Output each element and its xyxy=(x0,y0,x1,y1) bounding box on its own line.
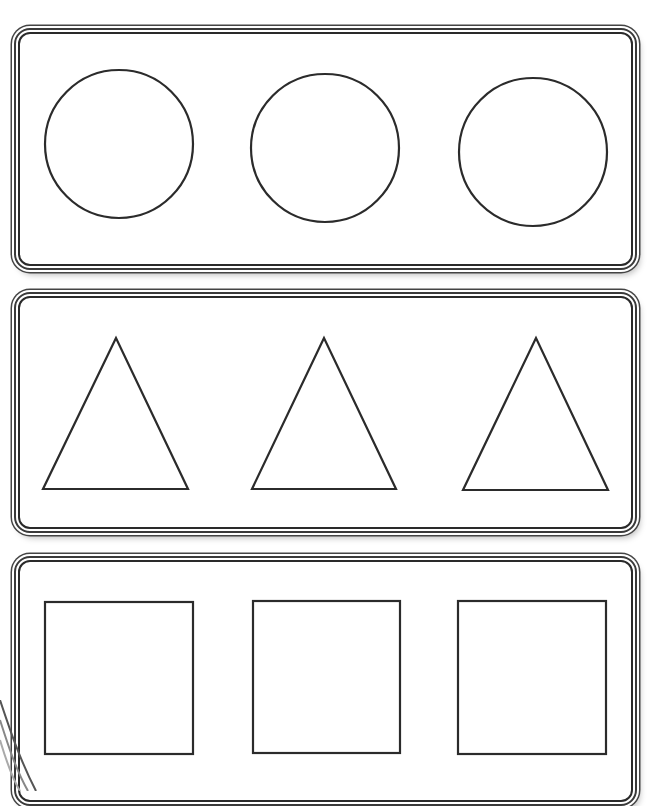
square-outline-1 xyxy=(45,602,193,754)
page-curl-decoration xyxy=(0,700,40,791)
triangle-outline-1 xyxy=(43,338,188,489)
triangle-outline-3 xyxy=(463,338,608,490)
square-outline-3 xyxy=(458,601,606,754)
circle-outline-1 xyxy=(45,70,193,218)
circle-outline-3 xyxy=(459,78,607,226)
circle-outline-2 xyxy=(251,74,399,222)
triangle-outline-2 xyxy=(252,338,396,489)
square-outline-2 xyxy=(253,601,400,753)
